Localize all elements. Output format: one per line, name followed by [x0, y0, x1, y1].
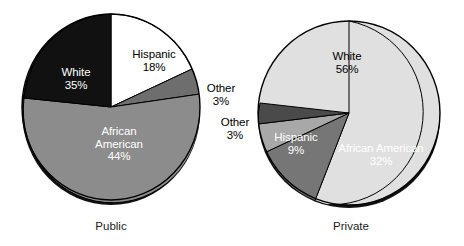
public-label-african-american: African American 44% — [84, 125, 154, 163]
public-chart-caption: Public — [71, 220, 151, 232]
private-label-african-american-name: African American — [338, 142, 423, 154]
private-label-hispanic-name: Hispanic — [274, 131, 317, 143]
private-label-white-pct: 56% — [315, 63, 379, 76]
public-label-white-pct: 35% — [44, 79, 108, 92]
pie-chart-figure: White 35% Hispanic 18% Other 3% African … — [0, 0, 464, 246]
public-label-african-american-name: African — [101, 125, 136, 137]
private-label-other: Other 3% — [214, 116, 256, 141]
public-label-hispanic-pct: 18% — [119, 61, 189, 74]
public-label-african-american-name2: American — [84, 138, 154, 151]
public-slice-white — [24, 14, 111, 107]
public-label-white-name: White — [62, 66, 91, 78]
public-label-hispanic-name: Hispanic — [132, 48, 175, 60]
private-label-other-name: Other — [221, 116, 249, 128]
public-label-other: Other 3% — [201, 82, 241, 107]
private-label-african-american-pct: 32% — [323, 155, 439, 168]
public-label-other-pct: 3% — [201, 95, 241, 108]
public-label-african-american-pct: 44% — [84, 150, 154, 163]
private-label-white-name: White — [333, 50, 362, 62]
public-label-hispanic: Hispanic 18% — [119, 48, 189, 73]
private-label-african-american: African American 32% — [323, 142, 439, 167]
private-label-other-pct: 3% — [214, 129, 256, 142]
public-label-white: White 35% — [44, 66, 108, 91]
private-chart-caption: Private — [311, 220, 391, 232]
private-label-white: White 56% — [315, 50, 379, 75]
public-pie-group — [22, 14, 201, 205]
private-label-hispanic: Hispanic 9% — [265, 131, 327, 156]
private-label-hispanic-pct: 9% — [265, 144, 327, 157]
public-label-other-name: Other — [207, 82, 235, 94]
